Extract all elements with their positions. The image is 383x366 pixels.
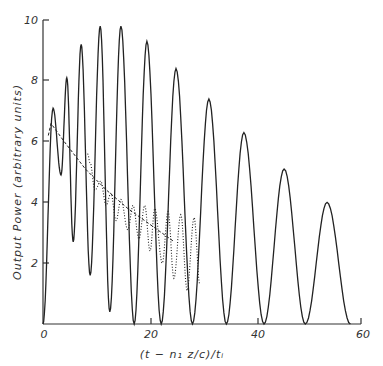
y-tick-label: 4 (31, 196, 38, 209)
series-layer (43, 26, 350, 324)
x-tick-label: 60 (356, 328, 370, 341)
y-tick-label: 8 (31, 74, 38, 87)
y-tick-label: 6 (31, 135, 38, 148)
y-tick-label: 10 (24, 14, 38, 27)
y-axis-label: Output Power (arbitrary units) (11, 84, 24, 280)
y-tick-labels: 10 8 6 4 2 (24, 14, 38, 270)
y-tick-label: 2 (31, 257, 38, 270)
solid-curve (43, 26, 350, 324)
x-tick-label: 20 (144, 328, 158, 341)
x-axis-label: (t − n₁ z/c)/tᵢ (140, 348, 225, 361)
x-tick-label: 0 (41, 328, 48, 341)
x-tick-labels: 0 20 40 60 (41, 328, 371, 341)
x-tick-label: 40 (251, 328, 265, 341)
chart: 10 8 6 4 2 0 20 40 60 (t − n₁ z/c)/tᵢ Ou… (0, 0, 383, 366)
